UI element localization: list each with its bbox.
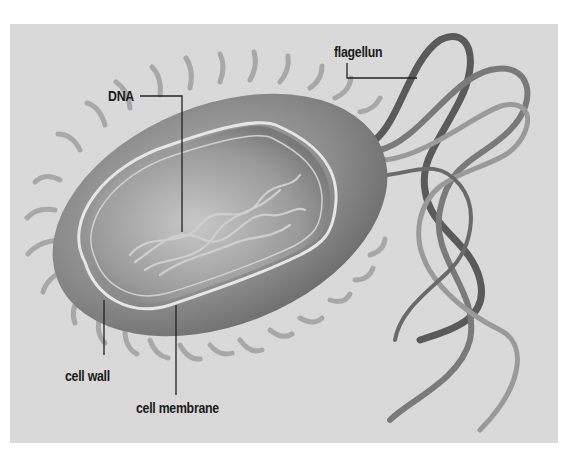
flagellum-leader — [347, 63, 417, 78]
bacterium-illustration — [0, 0, 570, 463]
label-dna: DNA — [108, 88, 134, 104]
label-cell-wall: cell wall — [65, 368, 110, 384]
label-cell-membrane: cell membrane — [136, 400, 219, 416]
label-flagellum: flagellun — [334, 44, 382, 60]
flagella — [375, 36, 528, 430]
